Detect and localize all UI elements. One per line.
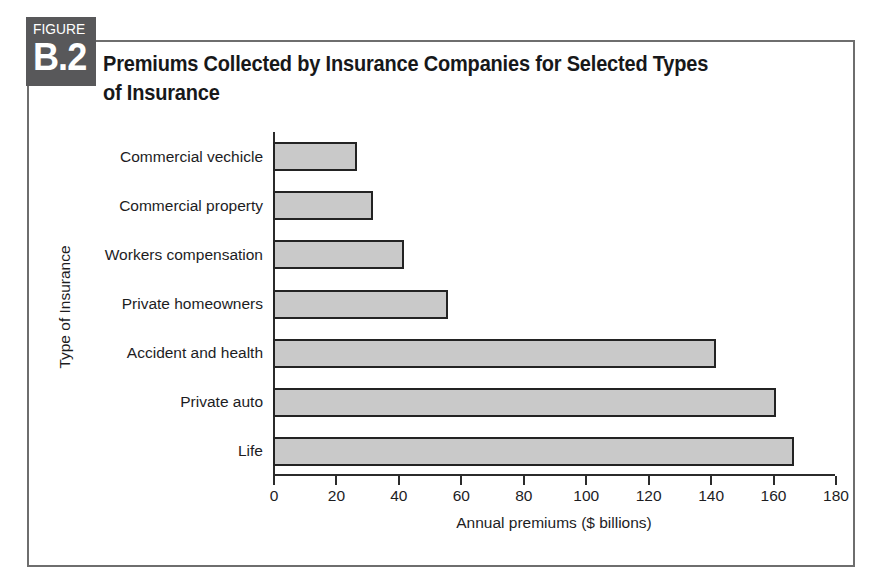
figure-badge: FIGURE B.2	[26, 17, 96, 86]
x-axis-tick	[648, 476, 650, 485]
y-axis-tick-label: Accident and health	[127, 342, 263, 364]
plot-area: Type of Insurance Commercial vechicleCom…	[27, 40, 855, 567]
x-axis-tick	[398, 476, 400, 485]
bar	[273, 290, 448, 319]
bar	[273, 437, 794, 466]
bar	[273, 240, 404, 269]
x-axis-tick-label: 180	[816, 487, 856, 505]
figure-badge-kicker: FIGURE	[33, 17, 91, 37]
x-axis-tick-label: 20	[316, 487, 356, 505]
x-axis-tick-label: 60	[441, 487, 481, 505]
x-axis-tick-label: 100	[566, 487, 606, 505]
bar	[273, 339, 716, 368]
figure-title: Premiums Collected by Insurance Companie…	[103, 50, 717, 108]
x-axis-tick-label: 0	[254, 487, 294, 505]
y-axis-tick-label: Commercial vechicle	[120, 146, 263, 168]
x-axis-tick-label: 120	[629, 487, 669, 505]
x-axis-tick-label: 140	[691, 487, 731, 505]
y-axis-tick-label: Private homeowners	[122, 293, 263, 315]
y-axis-tick-label: Commercial property	[119, 195, 263, 217]
y-axis-tick-label: Private auto	[180, 391, 263, 413]
bar	[273, 191, 373, 220]
y-axis-tick-label: Life	[238, 440, 263, 462]
y-axis-tick-labels: Commercial vechicleCommercial propertyWo…	[65, 138, 269, 458]
figure-badge-number: B.2	[33, 37, 93, 77]
x-axis-title: Annual premiums ($ billions)	[273, 514, 835, 532]
bar-series	[273, 132, 835, 476]
x-axis-tick	[460, 476, 462, 485]
y-axis-tick-label: Workers compensation	[105, 244, 263, 266]
x-axis-tick	[585, 476, 587, 485]
bar	[273, 388, 776, 417]
x-axis-tick-label: 160	[754, 487, 794, 505]
x-axis-tick	[773, 476, 775, 485]
x-axis-tick-label: 40	[379, 487, 419, 505]
x-axis-tick	[523, 476, 525, 485]
x-axis-tick-label: 80	[504, 487, 544, 505]
x-axis-tick	[710, 476, 712, 485]
x-axis-tick	[335, 476, 337, 485]
x-axis-tick	[835, 476, 837, 485]
bar	[273, 142, 357, 171]
figure-container: FIGURE B.2 Premiums Collected by Insuran…	[0, 0, 888, 588]
x-axis-tick	[273, 476, 275, 485]
